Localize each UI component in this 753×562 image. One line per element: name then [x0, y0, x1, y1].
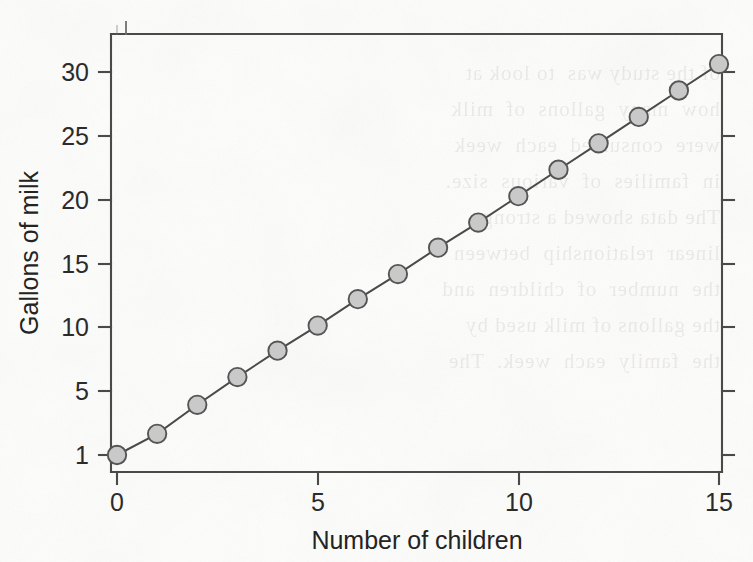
data-point: [630, 108, 648, 126]
data-point: [670, 81, 688, 99]
data-point: [469, 213, 487, 231]
data-point: [549, 161, 567, 179]
x-tick-label-0: 0: [110, 488, 124, 516]
y-tick-label-5: 5: [75, 377, 89, 405]
x-tick-label-5: 5: [311, 488, 325, 516]
y-axis-tick-labels: 30 25 20 15 10 5 1: [61, 58, 89, 469]
y-tick-label-30: 30: [61, 58, 89, 86]
data-point: [589, 134, 607, 152]
series-markers: [108, 55, 728, 464]
y-axis-title: Gallons of milk: [15, 171, 43, 335]
data-point: [349, 290, 367, 308]
series-line: [117, 64, 719, 455]
y-tick-label-20: 20: [61, 186, 89, 214]
y-axis-ticks-right: [722, 72, 734, 455]
data-point: [228, 368, 246, 386]
y-axis-ticks-left: [99, 72, 111, 455]
data-point: [148, 425, 166, 443]
x-tick-label-10: 10: [505, 488, 533, 516]
x-axis-ticks-top: [117, 22, 126, 34]
y-tick-label-10: 10: [61, 313, 89, 341]
data-point: [308, 316, 326, 334]
x-axis-tick-labels: 0 5 10 15: [110, 488, 733, 516]
data-point: [509, 187, 527, 205]
data-point: [188, 396, 206, 414]
data-point: [389, 265, 407, 283]
x-axis-title: Number of children: [311, 526, 522, 554]
y-tick-label-1: 1: [75, 441, 89, 469]
y-tick-label-25: 25: [61, 122, 89, 150]
plot-area: 30 25 20 15 10 5 1 0 5 10 15 Number of c…: [0, 0, 753, 562]
data-point: [429, 238, 447, 256]
y-tick-label-15: 15: [61, 250, 89, 278]
data-series-gallons-of-milk: [108, 55, 728, 464]
data-point: [268, 341, 286, 359]
data-point: [108, 446, 126, 464]
x-tick-label-15: 15: [705, 488, 733, 516]
x-axis-ticks-bottom: [117, 472, 719, 484]
data-point: [710, 55, 728, 73]
chart-figure: of the study was to look at how many gal…: [0, 0, 753, 562]
